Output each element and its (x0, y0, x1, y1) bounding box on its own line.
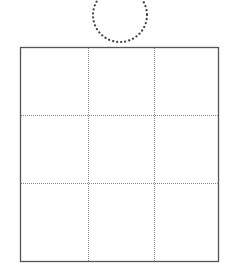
grid-dividers (21, 48, 218, 261)
diagram-canvas (0, 0, 235, 278)
grid-border (21, 48, 219, 262)
dotted-circle (93, 0, 147, 42)
